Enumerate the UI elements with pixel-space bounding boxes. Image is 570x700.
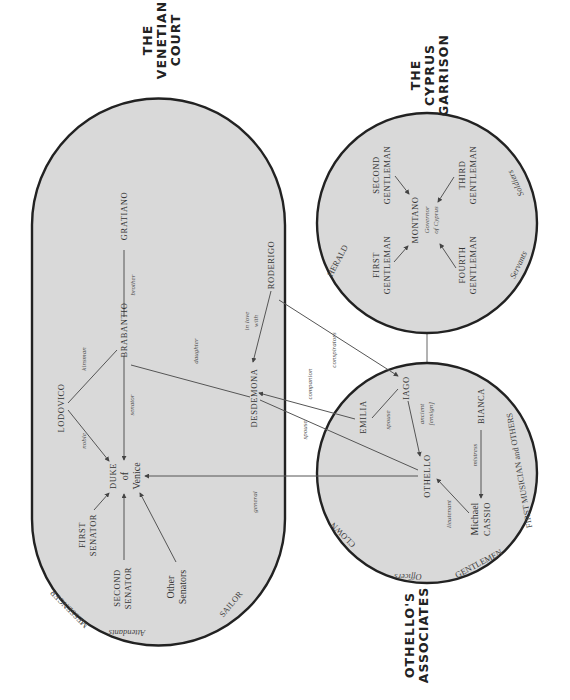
svg-text:GENTLEMAN: GENTLEMAN	[468, 146, 478, 204]
character-desdemona: DESDEMONA	[249, 368, 259, 427]
label-kinsman: kinsman	[80, 347, 88, 371]
svg-text:VENETIAN: VENETIAN	[154, 1, 169, 80]
othellos-associates-title: OTHELLO'S ASSOCIATES	[402, 587, 431, 683]
svg-text:FOURTH: FOURTH	[457, 246, 467, 283]
label-companion: companion	[306, 368, 314, 400]
label-general: general	[251, 491, 259, 512]
svg-text:FIRST: FIRST	[371, 252, 381, 278]
svg-text:THE: THE	[408, 60, 423, 91]
svg-text:CYPRUS: CYPRUS	[422, 44, 437, 106]
character-iago: IAGO	[401, 376, 411, 400]
svg-text:Michael: Michael	[469, 502, 480, 535]
svg-text:ASSOCIATES: ASSOCIATES	[416, 587, 431, 683]
character-second-senator: SECOND SENATOR	[112, 567, 133, 609]
svg-text:Other: Other	[165, 575, 176, 598]
svg-text:Venice: Venice	[131, 462, 142, 490]
label-lieutenant: lieutenant	[445, 499, 453, 528]
character-roderigo: RODERIGO	[266, 241, 276, 290]
cyprus-garrison-title: THE CYPRUS GARRISON	[408, 34, 451, 116]
svg-text:FIRST: FIRST	[77, 522, 87, 548]
character-map-diagram: THE VENETIAN COURT THE CYPRUS GARRISON O…	[0, 0, 570, 700]
svg-text:OTHELLO'S: OTHELLO'S	[402, 592, 417, 678]
minor-attendants: Attendants	[108, 628, 146, 638]
svg-text:DUKE: DUKE	[108, 463, 118, 489]
svg-text:GARRISON: GARRISON	[436, 34, 451, 116]
svg-text:GENTLEMAN: GENTLEMAN	[382, 236, 392, 294]
minor-officers: Officers	[394, 572, 422, 582]
label-noble: noble	[80, 433, 88, 449]
character-othello: OTHELLO	[422, 454, 432, 497]
character-gratiano: GRATIANO	[119, 192, 129, 240]
label-ancient-ensign: ancient [ensign]	[418, 402, 435, 426]
svg-text:SENATOR: SENATOR	[88, 514, 98, 556]
venetian-court-title: THE VENETIAN COURT	[140, 1, 183, 80]
label-mistress: mistress	[471, 443, 479, 466]
svg-text:SECOND: SECOND	[371, 156, 381, 194]
label-daughter: daughter	[192, 338, 200, 364]
label-senator: senator	[128, 394, 136, 415]
svg-text:SENATOR: SENATOR	[123, 567, 133, 609]
svg-text:SECOND: SECOND	[112, 569, 122, 607]
label-brother: brother	[129, 274, 137, 295]
label-conspirators: conspirators	[330, 332, 338, 368]
svg-text:GENTLEMAN: GENTLEMAN	[382, 146, 392, 204]
svg-text:[ensign]: [ensign]	[427, 402, 435, 426]
character-lodovico: LODOVICO	[56, 383, 66, 432]
svg-text:Senators: Senators	[177, 570, 188, 605]
label-spouse-iago-emilia: spouse	[384, 410, 392, 429]
svg-text:CASSIO: CASSIO	[482, 502, 492, 536]
character-emilia: EMILIA	[358, 400, 368, 434]
svg-text:of Cyprus: of Cyprus	[432, 206, 440, 234]
svg-text:ancient: ancient	[418, 403, 426, 425]
svg-text:THIRD: THIRD	[457, 161, 467, 190]
svg-text:with: with	[252, 314, 260, 327]
label-spouse-othello-desdemona: spouse	[301, 420, 309, 439]
svg-text:COURT: COURT	[168, 14, 183, 67]
svg-text:in love: in love	[243, 312, 251, 331]
svg-text:THE: THE	[140, 25, 155, 56]
character-brabantio: BRABANTIO	[119, 303, 129, 358]
svg-text:of: of	[119, 471, 130, 480]
svg-text:GENTLEMAN: GENTLEMAN	[468, 236, 478, 294]
character-bianca: BIANCA	[476, 388, 486, 424]
montano-title: Governor of Cyprus	[423, 206, 440, 234]
svg-text:Governor: Governor	[423, 206, 431, 233]
character-montano: MONTANO	[410, 197, 420, 244]
